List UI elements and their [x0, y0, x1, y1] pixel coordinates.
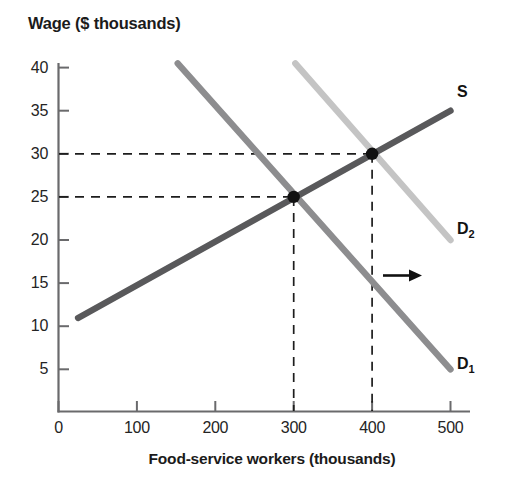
equilibrium-point-e1: [288, 191, 300, 203]
y-tick-label-25: 25: [6, 188, 48, 206]
y-tick-label-20: 20: [6, 231, 48, 249]
curve-label-demand-d1: D1: [457, 355, 475, 375]
y-tick-label-35: 35: [6, 102, 48, 120]
curve-label-supply: S: [457, 83, 468, 101]
guide-lines: [59, 154, 372, 411]
x-tick-label-0: 0: [29, 419, 89, 437]
y-axis-ticks: [59, 68, 70, 370]
curve-label-demand-d1-text: D: [457, 355, 469, 372]
x-tick-label-500: 500: [421, 419, 481, 437]
curve-label-demand-d1-subscript: 1: [469, 363, 475, 375]
curve-label-demand-d2: D2: [457, 220, 475, 240]
demand-curve-d1: [178, 63, 451, 369]
demand-shift-arrow: [383, 270, 422, 282]
supply-curve-s: [78, 111, 450, 318]
x-tick-label-300: 300: [264, 419, 324, 437]
x-axis-title: Food-service workers (thousands): [0, 450, 508, 468]
y-tick-label-10: 10: [6, 317, 48, 335]
supply-demand-chart: Wage ($ thousands): [0, 0, 508, 483]
x-tick-label-400: 400: [342, 419, 402, 437]
y-tick-label-15: 15: [6, 274, 48, 292]
x-tick-label-100: 100: [107, 419, 167, 437]
equilibrium-point-e2: [366, 148, 378, 160]
x-tick-label-200: 200: [185, 419, 245, 437]
curve-label-demand-d2-subscript: 2: [469, 228, 475, 240]
y-tick-label-30: 30: [6, 145, 48, 163]
y-tick-label-40: 40: [6, 59, 48, 77]
curve-label-demand-d2-text: D: [457, 220, 469, 237]
x-axis-ticks: [59, 401, 451, 412]
chart-plot-area: [0, 0, 508, 483]
y-tick-label-5: 5: [6, 360, 48, 378]
